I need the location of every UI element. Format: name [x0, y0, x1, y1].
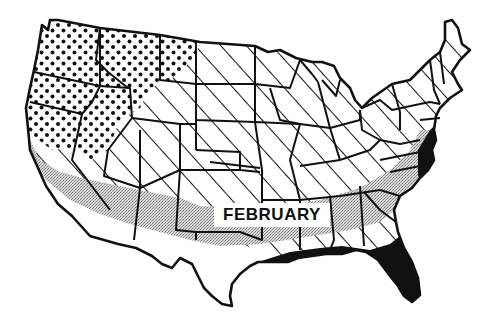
us-map: FEBRUARY [0, 0, 495, 322]
us-map-graphic [0, 0, 495, 322]
zone-fills [0, 0, 495, 322]
month-label: FEBRUARY [214, 203, 330, 227]
month-label-text: FEBRUARY [223, 205, 321, 225]
